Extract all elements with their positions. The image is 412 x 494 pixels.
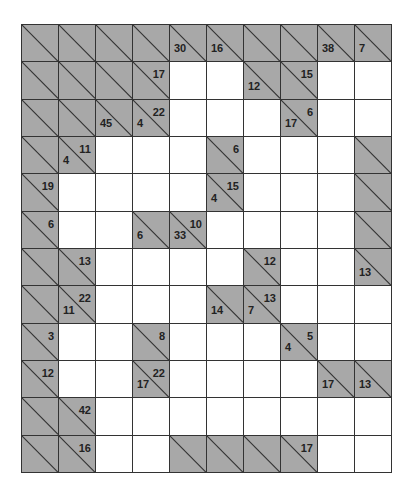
blocked-cell: [59, 25, 95, 61]
clue-cell: 14: [207, 286, 243, 322]
entry-cell[interactable]: [281, 361, 317, 397]
blocked-cell: [59, 100, 95, 136]
entry-cell[interactable]: [59, 324, 95, 360]
across-clue: 3: [48, 331, 54, 342]
entry-cell[interactable]: [207, 100, 243, 136]
entry-cell[interactable]: [244, 137, 280, 173]
entry-cell[interactable]: [170, 361, 206, 397]
entry-cell[interactable]: [133, 137, 169, 173]
entry-cell[interactable]: [281, 174, 317, 210]
entry-cell[interactable]: [355, 398, 391, 434]
entry-cell[interactable]: [318, 100, 354, 136]
entry-cell[interactable]: [207, 249, 243, 285]
entry-cell[interactable]: [318, 212, 354, 248]
entry-cell[interactable]: [96, 324, 132, 360]
entry-cell[interactable]: [318, 137, 354, 173]
entry-cell[interactable]: [355, 324, 391, 360]
entry-cell[interactable]: [207, 212, 243, 248]
clue-cell: 12: [22, 361, 58, 397]
entry-cell[interactable]: [207, 324, 243, 360]
entry-cell[interactable]: [170, 174, 206, 210]
entry-cell[interactable]: [170, 62, 206, 98]
diagonal-divider-icon: [22, 62, 58, 98]
entry-cell[interactable]: [96, 286, 132, 322]
across-clue: 22: [79, 293, 91, 304]
entry-cell[interactable]: [170, 286, 206, 322]
entry-cell[interactable]: [281, 286, 317, 322]
entry-cell[interactable]: [318, 286, 354, 322]
diagonal-divider-icon: [244, 436, 280, 472]
entry-cell[interactable]: [96, 398, 132, 434]
down-clue: 17: [285, 118, 297, 129]
entry-cell[interactable]: [244, 324, 280, 360]
entry-cell[interactable]: [96, 249, 132, 285]
entry-cell[interactable]: [318, 324, 354, 360]
entry-cell[interactable]: [133, 249, 169, 285]
diagonal-divider-icon: [22, 137, 58, 173]
entry-cell[interactable]: [207, 361, 243, 397]
across-clue: 22: [153, 107, 165, 118]
entry-cell[interactable]: [244, 212, 280, 248]
entry-cell[interactable]: [355, 286, 391, 322]
down-clue: 45: [100, 118, 112, 129]
diagonal-divider-icon: [59, 25, 95, 61]
entry-cell[interactable]: [318, 174, 354, 210]
entry-cell[interactable]: [96, 212, 132, 248]
entry-cell[interactable]: [133, 174, 169, 210]
entry-cell[interactable]: [207, 62, 243, 98]
across-clue: 12: [264, 256, 276, 267]
entry-cell[interactable]: [318, 249, 354, 285]
entry-cell[interactable]: [59, 174, 95, 210]
entry-cell[interactable]: [281, 212, 317, 248]
clue-cell: 30: [170, 25, 206, 61]
diagonal-divider-icon: [22, 398, 58, 434]
across-clue: 11: [79, 144, 91, 155]
blocked-cell: [355, 174, 391, 210]
entry-cell[interactable]: [133, 286, 169, 322]
clue-cell: 3: [22, 324, 58, 360]
entry-cell[interactable]: [355, 436, 391, 472]
clue-cell: 54: [281, 324, 317, 360]
entry-cell[interactable]: [281, 249, 317, 285]
entry-cell[interactable]: [318, 62, 354, 98]
entry-cell[interactable]: [244, 100, 280, 136]
entry-cell[interactable]: [170, 249, 206, 285]
entry-cell[interactable]: [170, 137, 206, 173]
entry-cell[interactable]: [59, 361, 95, 397]
entry-cell[interactable]: [170, 324, 206, 360]
entry-cell[interactable]: [355, 62, 391, 98]
entry-cell[interactable]: [244, 398, 280, 434]
entry-cell[interactable]: [318, 436, 354, 472]
blocked-cell: [22, 398, 58, 434]
across-clue: 12: [42, 368, 54, 379]
entry-cell[interactable]: [318, 398, 354, 434]
entry-cell[interactable]: [96, 174, 132, 210]
kakuro-grid: 3016387171215452246171146191546610331312…: [21, 24, 392, 473]
entry-cell[interactable]: [207, 398, 243, 434]
entry-cell[interactable]: [281, 398, 317, 434]
entry-cell[interactable]: [96, 361, 132, 397]
entry-cell[interactable]: [170, 100, 206, 136]
across-clue: 13: [264, 293, 276, 304]
clue-cell: 8: [133, 324, 169, 360]
entry-cell[interactable]: [170, 398, 206, 434]
blocked-cell: [133, 25, 169, 61]
entry-cell[interactable]: [133, 398, 169, 434]
entry-cell[interactable]: [59, 212, 95, 248]
clue-cell: 17: [281, 436, 317, 472]
entry-cell[interactable]: [96, 436, 132, 472]
entry-cell[interactable]: [281, 137, 317, 173]
clue-cell: 6: [22, 212, 58, 248]
down-clue: 17: [322, 379, 334, 390]
entry-cell[interactable]: [244, 174, 280, 210]
entry-cell[interactable]: [355, 100, 391, 136]
down-clue: 13: [359, 267, 371, 278]
entry-cell[interactable]: [244, 361, 280, 397]
entry-cell[interactable]: [96, 137, 132, 173]
blocked-cell: [207, 436, 243, 472]
across-clue: 6: [307, 107, 313, 118]
clue-cell: 17: [133, 62, 169, 98]
clue-cell: 42: [59, 398, 95, 434]
entry-cell[interactable]: [133, 436, 169, 472]
clue-cell: 15: [281, 62, 317, 98]
